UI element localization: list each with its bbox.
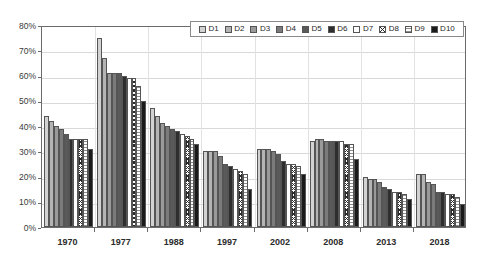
y-axis-tick-label: 20% — [0, 173, 36, 182]
legend-swatch-icon — [353, 26, 360, 33]
bar-chart: 80%70%60%50%40%30%20%10%0% 1970197719881… — [0, 0, 479, 260]
bar-group-2018 — [416, 27, 465, 227]
x-axis-tick-label: 2013 — [356, 237, 416, 247]
x-axis-tick-label: 1977 — [91, 237, 151, 247]
x-axis-tick-mark — [307, 228, 308, 232]
x-axis-tick-mark — [147, 228, 148, 232]
legend-swatch-icon — [328, 26, 335, 33]
category-separator — [255, 27, 256, 227]
bar-D10-1970 — [88, 149, 93, 227]
bar-D10-2002 — [301, 174, 306, 227]
legend-item-D8[interactable]: D8 — [379, 25, 399, 33]
y-axis-tick-label: 30% — [0, 148, 36, 157]
x-axis-tick-label: 2002 — [250, 237, 310, 247]
y-axis-tick-label: 10% — [0, 198, 36, 207]
bar-group-1970 — [44, 27, 93, 227]
legend-swatch-icon — [431, 26, 438, 33]
legend-item-D3[interactable]: D3 — [250, 25, 270, 33]
bar-D10-2008 — [354, 159, 359, 227]
plot-inner — [42, 27, 465, 227]
bar-group-1997 — [203, 27, 252, 227]
bar-D10-2018 — [460, 204, 465, 227]
x-axis-tick-label: 1988 — [144, 237, 204, 247]
legend-swatch-icon — [405, 26, 412, 33]
legend-label: D8 — [389, 25, 399, 33]
legend-label: D9 — [414, 25, 424, 33]
legend-label: D1 — [209, 25, 219, 33]
x-axis-tick-label: 2018 — [409, 237, 469, 247]
bar-group-1988 — [150, 27, 199, 227]
legend-label: D7 — [363, 25, 373, 33]
category-separator — [201, 27, 202, 227]
category-separator — [414, 27, 415, 227]
x-axis-tick-label: 1970 — [38, 237, 98, 247]
bar-group-2002 — [257, 27, 306, 227]
category-separator — [361, 27, 362, 227]
x-axis-tick-mark — [413, 228, 414, 232]
bar-group-1977 — [97, 27, 146, 227]
legend-item-D2[interactable]: D2 — [225, 25, 245, 33]
bar-group-2008 — [310, 27, 359, 227]
y-axis-tick-mark — [38, 228, 41, 229]
legend-item-D4[interactable]: D4 — [276, 25, 296, 33]
bar-group-2013 — [363, 27, 412, 227]
category-separator — [95, 27, 96, 227]
legend-item-D1[interactable]: D1 — [199, 25, 219, 33]
x-axis-tick-mark — [200, 228, 201, 232]
legend-item-D9[interactable]: D9 — [405, 25, 425, 33]
x-axis-tick-mark — [254, 228, 255, 232]
legend-label: D4 — [286, 25, 296, 33]
legend-label: D5 — [311, 25, 321, 33]
legend-swatch-icon — [225, 26, 232, 33]
y-axis-tick-label: 0% — [0, 224, 36, 233]
y-axis-tick-label: 50% — [0, 97, 36, 106]
legend-swatch-icon — [302, 26, 309, 33]
legend-item-D5[interactable]: D5 — [302, 25, 322, 33]
bar-D10-1977 — [141, 101, 146, 227]
y-axis-tick-label: 70% — [0, 47, 36, 56]
y-axis-tick-label: 40% — [0, 123, 36, 132]
legend-label: D3 — [260, 25, 270, 33]
legend-label: D2 — [234, 25, 244, 33]
legend-swatch-icon — [379, 26, 386, 33]
legend-item-D10[interactable]: D10 — [431, 25, 455, 33]
legend-swatch-icon — [250, 26, 257, 33]
y-axis-tick-label: 60% — [0, 72, 36, 81]
category-separator — [308, 27, 309, 227]
bar-D10-1997 — [248, 189, 253, 227]
category-separator — [148, 27, 149, 227]
legend: D1D2D3D4D5D6D7D8D9D10 — [190, 21, 464, 37]
y-axis-tick-label: 80% — [0, 22, 36, 31]
plot-area — [41, 26, 466, 228]
legend-label: D10 — [440, 25, 455, 33]
x-axis-tick-mark — [94, 228, 95, 232]
bar-D10-2013 — [407, 199, 412, 227]
legend-label: D6 — [337, 25, 347, 33]
legend-item-D6[interactable]: D6 — [328, 25, 348, 33]
bar-D10-1988 — [194, 144, 199, 227]
legend-item-D7[interactable]: D7 — [353, 25, 373, 33]
x-axis-tick-label: 2008 — [303, 237, 363, 247]
legend-swatch-icon — [199, 26, 206, 33]
legend-swatch-icon — [276, 26, 283, 33]
x-axis-tick-label: 1997 — [197, 237, 257, 247]
x-axis-tick-mark — [360, 228, 361, 232]
